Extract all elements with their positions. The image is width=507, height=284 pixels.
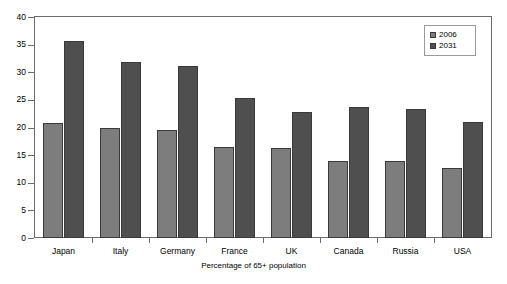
- legend-swatch-2006-icon: [430, 32, 436, 38]
- bar-chart: 0510152025303540 JapanItalyGermanyFrance…: [0, 0, 507, 284]
- bar-usa-2006: [442, 168, 462, 238]
- bar-canada-2031: [349, 107, 369, 238]
- bar-japan-2031: [64, 41, 84, 238]
- y-axis-tick-label: 0: [2, 234, 26, 243]
- x-axis-label-japan: Japan: [35, 247, 92, 256]
- bar-uk-2006: [271, 148, 291, 238]
- y-axis-tick-label: 20: [2, 123, 26, 132]
- x-axis-label-uk: UK: [263, 247, 320, 256]
- x-axis-tick: [434, 238, 435, 243]
- bar-italy-2031: [121, 62, 141, 238]
- bar-france-2031: [235, 98, 255, 238]
- y-axis-tick-label: 30: [2, 68, 26, 77]
- x-axis-label-russia: Russia: [377, 247, 434, 256]
- legend-label: 2006: [439, 31, 457, 39]
- bar-usa-2031: [463, 122, 483, 238]
- bar-canada-2006: [328, 161, 348, 238]
- y-axis-tick-label: 5: [2, 206, 26, 215]
- x-axis-tick: [263, 238, 264, 243]
- y-axis: 0510152025303540: [0, 0, 26, 284]
- y-axis-tick: [28, 128, 34, 129]
- legend-label: 2031: [439, 42, 457, 50]
- y-axis-tick: [28, 183, 34, 184]
- y-axis-tick-label: 40: [2, 13, 26, 22]
- y-axis-tick: [28, 238, 34, 239]
- bar-uk-2031: [292, 112, 312, 238]
- y-axis-tick-label: 15: [2, 151, 26, 160]
- x-axis-tick: [206, 238, 207, 243]
- y-axis-tick-label: 10: [2, 178, 26, 187]
- bar-russia-2006: [385, 161, 405, 238]
- bar-germany-2006: [157, 130, 177, 238]
- legend-swatch-2031-icon: [430, 43, 436, 49]
- y-axis-tick: [28, 210, 34, 211]
- x-axis-label-germany: Germany: [149, 247, 206, 256]
- y-axis-tick-label: 35: [2, 40, 26, 49]
- x-axis-label-italy: Italy: [92, 247, 149, 256]
- y-axis-tick: [28, 17, 34, 18]
- x-axis-label-canada: Canada: [320, 247, 377, 256]
- bar-germany-2031: [178, 66, 198, 238]
- y-axis-tick: [28, 72, 34, 73]
- x-axis-label-usa: USA: [434, 247, 491, 256]
- y-axis-tick: [28, 155, 34, 156]
- bar-japan-2006: [43, 123, 63, 238]
- bar-france-2006: [214, 147, 234, 238]
- legend-item-2006: 2006: [430, 30, 471, 40]
- x-axis-tick: [149, 238, 150, 243]
- y-axis-tick: [28, 100, 34, 101]
- x-axis-label-france: France: [206, 247, 263, 256]
- y-axis-tick: [28, 45, 34, 46]
- chart-legend: 20062031: [424, 25, 476, 56]
- bars-container: [35, 17, 491, 238]
- legend-item-2031: 2031: [430, 41, 471, 51]
- x-axis-tick: [377, 238, 378, 243]
- x-axis-tick: [320, 238, 321, 243]
- bar-italy-2006: [100, 128, 120, 238]
- x-axis-title: Percentage of 65+ population: [0, 261, 507, 270]
- y-axis-tick-label: 25: [2, 95, 26, 104]
- x-axis-tick: [92, 238, 93, 243]
- bar-russia-2031: [406, 109, 426, 238]
